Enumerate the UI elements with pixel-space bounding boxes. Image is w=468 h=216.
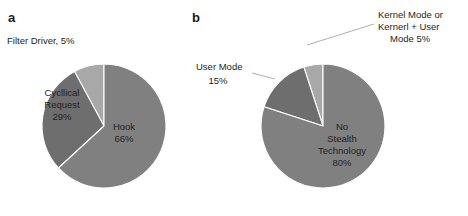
panel-a: a Filter Driver, 5% Cycllical Request 29… bbox=[7, 10, 166, 188]
pie-b-label-no-stealth-value: 80% bbox=[332, 157, 352, 168]
pie-b-leader-kernel-mode bbox=[307, 24, 374, 45]
pie-a-label-filter-driver: Filter Driver, 5% bbox=[7, 35, 75, 46]
pie-b-leader-user-mode bbox=[252, 73, 275, 79]
pie-a-label-cyclical-line2: Request bbox=[44, 99, 80, 110]
pie-a-label-cyclical-line1: Cycllical bbox=[45, 87, 80, 98]
pie-a-label-cyclical-value: 29% bbox=[52, 111, 72, 122]
panel-b-letter: b bbox=[192, 10, 200, 25]
pie-b-label-kernel-line3: Mode 5% bbox=[390, 33, 431, 44]
panel-b: b Kernel Mode or Kernerl + User Mode 5% … bbox=[192, 9, 443, 188]
pie-b-label-no-stealth-line1: No bbox=[336, 121, 348, 132]
figure-container: a Filter Driver, 5% Cycllical Request 29… bbox=[0, 0, 468, 216]
pie-charts-figure: a Filter Driver, 5% Cycllical Request 29… bbox=[0, 0, 468, 216]
pie-a-label-hook-value: 66% bbox=[114, 133, 134, 144]
pie-b-label-kernel-line1: Kernel Mode or bbox=[378, 9, 443, 20]
pie-b-label-user-mode-line1: User Mode bbox=[196, 61, 242, 72]
pie-b-label-no-stealth-line2: Stealth bbox=[327, 133, 357, 144]
panel-a-letter: a bbox=[8, 10, 16, 25]
pie-b-label-no-stealth-line3: Technology bbox=[318, 145, 366, 156]
pie-a-label-hook-line1: Hook bbox=[113, 121, 135, 132]
pie-b-label-user-mode-value: 15% bbox=[208, 75, 228, 86]
pie-b-label-kernel-line2: Kernerl + User bbox=[378, 21, 440, 32]
